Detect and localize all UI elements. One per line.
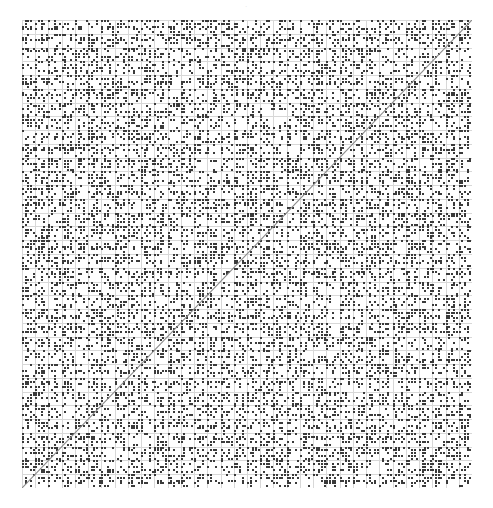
- figure-container: ·: [0, 0, 493, 508]
- header-artifact-text: ·: [0, 0, 493, 14]
- plot-area: [22, 20, 472, 488]
- matrix-grid-canvas: [22, 20, 472, 488]
